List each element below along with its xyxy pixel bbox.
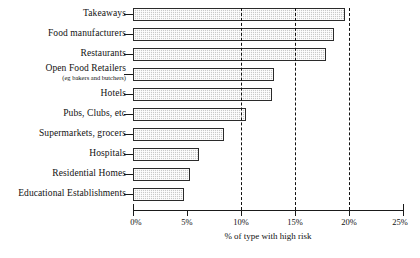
category-label-main: Residential Homes xyxy=(52,169,126,179)
category-tick xyxy=(124,194,133,195)
bar-hospitals xyxy=(133,148,199,161)
bar-open-food-retailers xyxy=(133,68,274,81)
reference-line-10pct xyxy=(241,8,242,210)
category-label-main: Food manufacturers xyxy=(48,29,126,39)
x-axis-tick xyxy=(241,210,242,216)
category-label: Restaurants xyxy=(81,49,126,59)
x-axis-tick-label: 20% xyxy=(341,217,357,227)
category-label-main: Supermarkets, grocers xyxy=(39,129,126,139)
x-axis-tick-label: 25% xyxy=(392,217,408,227)
category-tick xyxy=(124,154,133,155)
chart-container: Takeaways Food manufacturers Restaurants… xyxy=(0,0,420,258)
x-axis-tick-label: 15% xyxy=(287,217,303,227)
x-axis-tick-label: 0% xyxy=(130,217,141,227)
x-axis-tick xyxy=(133,210,134,216)
category-tick xyxy=(124,74,133,75)
bar-residential-homes xyxy=(133,168,190,181)
category-label-sub: (eg bakers and butchers) xyxy=(45,75,126,82)
x-axis-line xyxy=(133,210,403,211)
x-axis-title: % of type with high risk xyxy=(133,231,403,241)
x-axis-tick-label: 10% xyxy=(233,217,249,227)
category-tick xyxy=(124,174,133,175)
category-label: Educational Establishments xyxy=(18,189,126,199)
bar-supermarkets-grocers xyxy=(133,128,224,141)
category-tick xyxy=(124,134,133,135)
x-axis-tick-label: 5% xyxy=(181,217,192,227)
category-label: Open Food Retailers (eg bakers and butch… xyxy=(45,64,126,81)
category-label: Supermarkets, grocers xyxy=(39,129,126,139)
bar-hotels xyxy=(133,88,272,101)
x-axis-tick xyxy=(295,210,296,216)
bar-restaurants xyxy=(133,48,326,61)
category-label-main: Pubs, Clubs, etc xyxy=(63,109,126,119)
category-label-main: Open Food Retailers xyxy=(45,64,126,74)
bar-educational-establishments xyxy=(133,188,184,201)
category-label: Food manufacturers xyxy=(48,29,126,39)
category-label-main: Restaurants xyxy=(81,49,126,59)
category-axis-labels: Takeaways Food manufacturers Restaurants… xyxy=(0,8,126,210)
x-axis-tick xyxy=(403,210,404,216)
category-tick xyxy=(124,94,133,95)
category-label-main: Educational Establishments xyxy=(18,189,126,199)
category-tick xyxy=(124,114,133,115)
category-label-main: Hotels xyxy=(101,89,126,99)
x-axis-tick xyxy=(349,210,350,216)
category-label-main: Takeaways xyxy=(83,9,126,19)
category-tick xyxy=(124,54,133,55)
bar-food-manufacturers xyxy=(133,28,334,41)
category-tick xyxy=(124,34,133,35)
category-label: Hospitals xyxy=(89,149,126,159)
reference-line-20pct xyxy=(349,8,350,210)
bar-pubs-clubs-etc xyxy=(133,108,246,121)
category-label: Takeaways xyxy=(83,9,126,19)
category-label: Residential Homes xyxy=(52,169,126,179)
category-tick xyxy=(124,14,133,15)
x-axis-tick xyxy=(187,210,188,216)
plot-area xyxy=(133,8,403,210)
category-label: Hotels xyxy=(101,89,126,99)
category-label-main: Hospitals xyxy=(89,149,126,159)
reference-line-15pct xyxy=(295,8,296,210)
category-label: Pubs, Clubs, etc xyxy=(63,109,126,119)
bar-takeaways xyxy=(133,8,345,21)
